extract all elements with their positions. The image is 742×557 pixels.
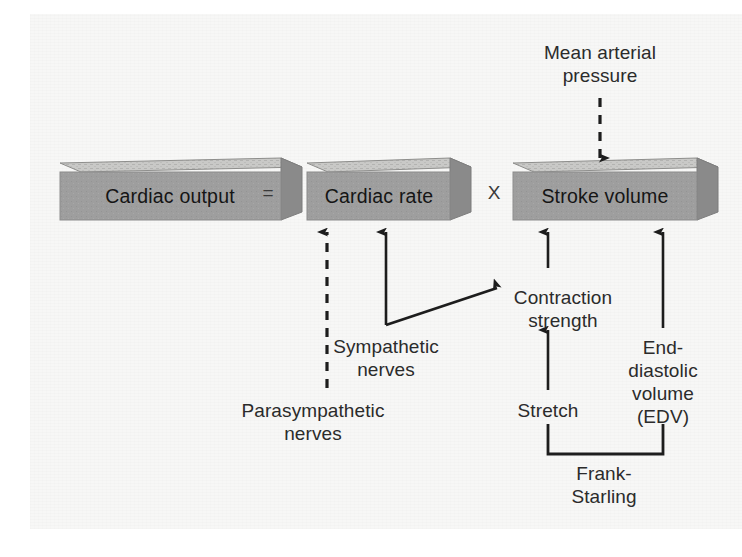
label-frank-starling: Frank- Starling <box>571 462 636 508</box>
label-end-diastolic-volume: End- diastolic volume (EDV) <box>628 336 698 428</box>
box-label-cardiac-output: Cardiac output <box>105 185 235 207</box>
label-contraction-strength: Contraction strength <box>514 286 612 332</box>
connector-sympathetic-to-contraction-strength <box>386 288 497 325</box>
box-label-cardiac-rate: Cardiac rate <box>325 185 434 207</box>
label-sympathetic-nerves: Sympathetic nerves <box>333 335 439 381</box>
connector-frank-starling-bracket <box>548 424 663 454</box>
label-parasympathetic-nerves: Parasympathetic nerves <box>241 399 384 445</box>
label-mean-arterial-pressure: Mean arterial pressure <box>544 41 656 87</box>
operator-equals: = <box>262 182 273 204</box>
diagram-figure: Cardiac output Cardiac rate Stroke volum… <box>0 0 742 557</box>
operator-multiply: X <box>488 182 501 204</box>
box-label-stroke-volume: Stroke volume <box>541 185 668 207</box>
label-stretch: Stretch <box>518 399 579 422</box>
